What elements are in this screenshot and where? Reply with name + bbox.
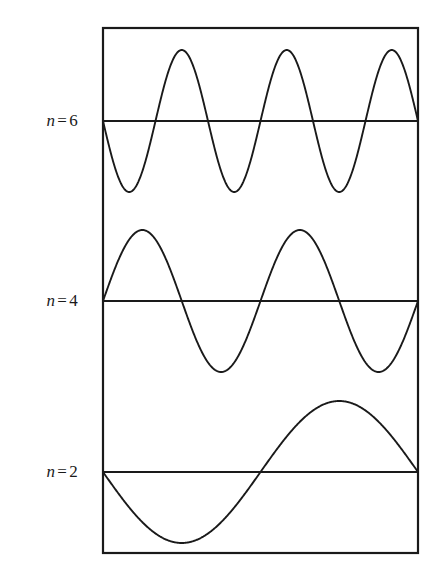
plot-frame [103,28,418,553]
standing-wave-figure: n=6 n=4 n=2 [0,0,446,584]
baseline-group [103,121,418,472]
wave-curves-group [103,50,418,543]
wave-plot [0,0,446,584]
